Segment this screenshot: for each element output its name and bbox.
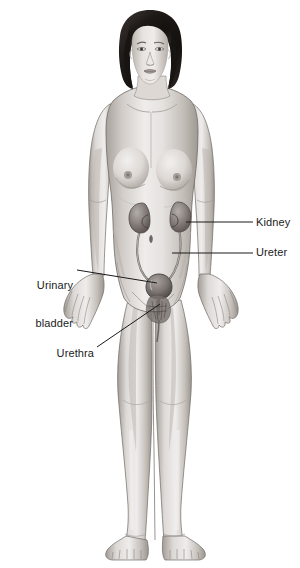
left-shin-highlight [131, 430, 132, 530]
label-urinary-bladder: Urinary bladder [0, 254, 73, 354]
right-shin-highlight [177, 430, 178, 530]
legs [118, 300, 192, 542]
left-breast [113, 147, 149, 189]
label-urinary-bladder-line2: bladder [0, 317, 73, 330]
right-ear [168, 50, 170, 59]
right-nipple-center [175, 175, 178, 179]
inner-thigh-gap [153, 312, 155, 540]
head [119, 10, 182, 89]
illustration-canvas: Kidney Ureter Urinary bladder Urethra [0, 0, 300, 568]
right-hand [198, 274, 238, 329]
left-kidney [129, 203, 150, 233]
right-breast [156, 149, 192, 191]
pelvic-region [146, 295, 170, 323]
right-kidney [170, 202, 191, 232]
label-ureter: Ureter [256, 246, 287, 259]
navel [150, 235, 153, 243]
left-nipple-center [126, 173, 129, 177]
label-kidney: Kidney [256, 216, 290, 229]
label-urethra: Urethra [0, 347, 94, 360]
label-urinary-bladder-line1: Urinary [0, 279, 73, 292]
feet [106, 534, 206, 560]
